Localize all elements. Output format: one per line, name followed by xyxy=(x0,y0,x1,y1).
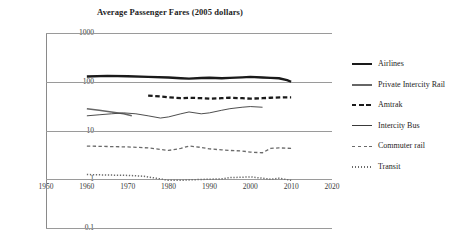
legend-swatch-intercity-bus xyxy=(352,121,372,131)
chart-title: Average Passenger Fares (2005 dollars) xyxy=(0,7,340,17)
legend-label-amtrak: Amtrak xyxy=(378,101,402,109)
legend-swatch-transit xyxy=(352,162,372,172)
legend-swatch-amtrak xyxy=(352,100,372,110)
legend-label-airlines: Airlines xyxy=(378,60,404,68)
legend-item-intercity-bus[interactable]: Intercity Bus xyxy=(352,116,468,137)
legend-label-intercity-bus: Intercity Bus xyxy=(378,122,420,130)
legend-label-transit: Transit xyxy=(378,163,400,171)
series-line-private-intercity-rail xyxy=(87,109,132,116)
series-layer xyxy=(46,33,332,228)
legend-label-commuter-rail: Commuter rail xyxy=(378,142,425,150)
legend-item-transit[interactable]: Transit xyxy=(352,157,468,178)
plot-area xyxy=(46,33,332,228)
series-line-transit xyxy=(87,175,291,181)
series-line-commuter-rail xyxy=(87,146,291,153)
gridline-0.1 xyxy=(46,228,332,229)
legend-swatch-commuter-rail xyxy=(352,141,372,151)
legend-swatch-private-intercity-rail xyxy=(352,80,372,90)
legend-item-amtrak[interactable]: Amtrak xyxy=(352,95,468,116)
legend-item-private-intercity-rail[interactable]: Private Intercity Rail xyxy=(352,75,468,96)
legend-label-private-intercity-rail: Private Intercity Rail xyxy=(378,81,445,89)
legend-item-airlines[interactable]: Airlines xyxy=(352,54,468,75)
series-line-airlines xyxy=(87,76,291,82)
legend-item-commuter-rail[interactable]: Commuter rail xyxy=(352,136,468,157)
series-line-amtrak xyxy=(148,96,291,99)
legend-swatch-airlines xyxy=(352,59,372,69)
chart-legend: AirlinesPrivate Intercity RailAmtrakInte… xyxy=(352,54,468,177)
chart-container: Average Passenger Fares (2005 dollars) 1… xyxy=(0,0,468,243)
